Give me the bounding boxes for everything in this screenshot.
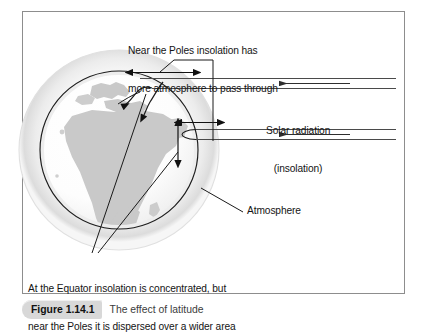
annotation-poles-line1: Near the Poles insolation has (128, 45, 278, 58)
annotation-equator-line1: At the Equator insolation is concentrate… (28, 283, 236, 296)
annotation-equator: At the Equator insolation is concentrate… (28, 258, 236, 336)
annotation-poles-line2: more atmosphere to pass through (128, 83, 278, 96)
figure-number-tab: Figure 1.14.1 (22, 300, 102, 319)
annotation-solar-line1: Solar radiation (266, 125, 330, 138)
annotation-solar-radiation: Solar radiation (insolation) (266, 100, 330, 201)
annotation-poles: Near the Poles insolation has more atmos… (128, 20, 278, 121)
figure-caption-title: The effect of latitude (102, 300, 204, 319)
figure-caption: Figure 1.14.1 The effect of latitude (22, 300, 204, 319)
annotation-atmosphere: Atmosphere (247, 205, 301, 218)
annotation-solar-line2: (insolation) (266, 163, 330, 176)
annotation-equator-line2: near the Poles it is dispersed over a wi… (28, 321, 236, 334)
